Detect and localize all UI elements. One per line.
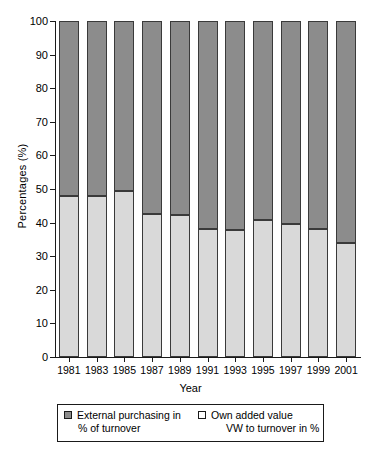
bar-segment-own-added-value[interactable] [142, 214, 162, 357]
y-tick [50, 290, 55, 291]
y-tick [50, 122, 55, 123]
bar-segment-own-added-value[interactable] [308, 229, 328, 357]
x-tick [97, 357, 98, 362]
y-tick-label: 100 [30, 16, 48, 27]
stacked-bar-chart: Percentages (%) 0102030405060708090100 1… [0, 0, 381, 449]
y-tick [50, 323, 55, 324]
x-tick-label: 1993 [224, 365, 247, 376]
bar-segment-own-added-value[interactable] [59, 196, 79, 357]
x-tick [180, 357, 181, 362]
bar-1981[interactable] [59, 21, 79, 357]
bar-segment-external-purchasing[interactable] [198, 21, 218, 229]
y-tick-label: 10 [36, 318, 48, 329]
x-tick-label: 2001 [334, 365, 357, 376]
y-axis-title: Percentages (%) [16, 116, 28, 256]
bar-segment-own-added-value[interactable] [114, 191, 134, 357]
bar-segment-external-purchasing[interactable] [336, 21, 356, 243]
bar-segment-external-purchasing[interactable] [114, 21, 134, 191]
x-tick-label: 1981 [57, 365, 80, 376]
x-tick-label: 1997 [279, 365, 302, 376]
bar-1985[interactable] [114, 21, 134, 357]
legend-item-own-added-value: Own added value VW to turnover in % [198, 409, 319, 435]
y-tick [50, 223, 55, 224]
x-tick-label: 1999 [307, 365, 330, 376]
bar-segment-external-purchasing[interactable] [253, 21, 273, 220]
x-tick-label: 1995 [251, 365, 274, 376]
x-tick [346, 357, 347, 362]
x-tick [152, 357, 153, 362]
x-tick [124, 357, 125, 362]
y-tick [50, 189, 55, 190]
y-tick-label: 20 [36, 284, 48, 295]
bar-1983[interactable] [87, 21, 107, 357]
bar-segment-own-added-value[interactable] [170, 215, 190, 357]
y-tick [50, 55, 55, 56]
y-tick-label: 80 [36, 83, 48, 94]
legend-item-external-purchasing: External purchasing in % of turnover [64, 409, 181, 435]
bar-1999[interactable] [308, 21, 328, 357]
bar-segment-external-purchasing[interactable] [87, 21, 107, 196]
legend-swatch-dark-icon [64, 411, 72, 419]
bar-segment-own-added-value[interactable] [87, 196, 107, 357]
bar-1987[interactable] [142, 21, 162, 357]
bar-segment-external-purchasing[interactable] [308, 21, 328, 229]
x-tick-label: 1985 [113, 365, 136, 376]
x-tick [208, 357, 209, 362]
legend-label-line2: % of turnover [78, 422, 181, 435]
bar-1995[interactable] [253, 21, 273, 357]
y-tick [50, 256, 55, 257]
y-tick-label: 60 [36, 150, 48, 161]
y-tick-label: 90 [36, 49, 48, 60]
y-tick [50, 88, 55, 89]
legend: External purchasing in % of turnover Own… [57, 404, 324, 442]
y-tick-label: 50 [36, 184, 48, 195]
y-tick-label: 0 [42, 352, 48, 363]
bar-1989[interactable] [170, 21, 190, 357]
bar-segment-own-added-value[interactable] [253, 220, 273, 357]
y-tick-label: 30 [36, 251, 48, 262]
plot-area: 0102030405060708090100 19811983198519871… [55, 21, 360, 357]
bar-segment-own-added-value[interactable] [336, 243, 356, 357]
legend-swatch-light-icon [198, 411, 206, 419]
y-tick [50, 21, 55, 22]
x-axis-title: Year [0, 382, 381, 394]
y-tick-label: 40 [36, 217, 48, 228]
x-tick [291, 357, 292, 362]
x-tick [235, 357, 236, 362]
y-tick-label: 70 [36, 116, 48, 127]
bar-segment-own-added-value[interactable] [225, 230, 245, 357]
bar-segment-own-added-value[interactable] [198, 229, 218, 357]
x-tick [69, 357, 70, 362]
bar-segment-external-purchasing[interactable] [170, 21, 190, 215]
bar-segment-external-purchasing[interactable] [225, 21, 245, 230]
x-tick-label: 1983 [85, 365, 108, 376]
legend-label-line1: External purchasing in [77, 409, 181, 422]
x-tick-label: 1989 [168, 365, 191, 376]
y-axis-line [55, 21, 56, 358]
x-tick [263, 357, 264, 362]
bar-segment-external-purchasing[interactable] [142, 21, 162, 214]
y-tick [50, 155, 55, 156]
x-tick [318, 357, 319, 362]
legend-label-line1: Own added value [211, 409, 293, 422]
bar-1997[interactable] [281, 21, 301, 357]
bar-2001[interactable] [336, 21, 356, 357]
bar-1991[interactable] [198, 21, 218, 357]
bar-1993[interactable] [225, 21, 245, 357]
x-tick-label: 1991 [196, 365, 219, 376]
bar-segment-external-purchasing[interactable] [281, 21, 301, 224]
y-tick [50, 357, 55, 358]
x-tick-label: 1987 [140, 365, 163, 376]
bar-segment-own-added-value[interactable] [281, 224, 301, 357]
bar-segment-external-purchasing[interactable] [59, 21, 79, 196]
legend-label-line2: VW to turnover in % [226, 422, 319, 435]
